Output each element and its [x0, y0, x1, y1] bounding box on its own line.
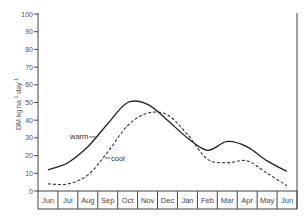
month-label: Mar [221, 196, 234, 205]
month-label: Jan [181, 196, 193, 205]
month-label: Nov [141, 196, 155, 205]
y-tick-label: 90 [25, 28, 33, 35]
y-tick-label: 100 [21, 11, 33, 18]
month-label: Aug [81, 196, 94, 205]
month-label: Feb [201, 196, 214, 205]
y-tick-label: 60 [25, 81, 33, 88]
month-label: Jul [63, 196, 73, 205]
month-label: May [260, 196, 274, 205]
growth-rate-chart: 0102030405060708090100 JunJulAugSepOctNo… [0, 0, 308, 222]
y-tick-label: 20 [25, 152, 33, 159]
y-axis-title: DM kg ha-1 day-1 [13, 78, 23, 130]
y-ticks: 0102030405060708090100 [21, 11, 38, 195]
month-label: Apr [241, 196, 253, 205]
y-tick-label: 40 [25, 117, 33, 124]
month-label: Jun [281, 196, 293, 205]
y-tick-label: 10 [25, 170, 33, 177]
y-tick-label: 30 [25, 134, 33, 141]
month-label: Sep [101, 196, 114, 205]
month-label: Dec [161, 196, 175, 205]
warm-label: warm [69, 132, 88, 141]
x-axis-months: JunJulAugSepOctNovDecJanFebMarAprMayJun [38, 191, 297, 209]
y-tick-label: 0 [29, 188, 33, 195]
y-tick-label: 80 [25, 46, 33, 53]
y-tick-label: 50 [25, 99, 33, 106]
month-label: Oct [122, 196, 135, 205]
cool-label: cool [111, 154, 125, 163]
y-tick-label: 70 [25, 64, 33, 71]
month-label: Jun [42, 196, 54, 205]
